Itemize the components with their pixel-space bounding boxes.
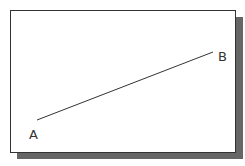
point-label-a: A bbox=[29, 127, 38, 142]
point-label-b: B bbox=[218, 49, 227, 64]
